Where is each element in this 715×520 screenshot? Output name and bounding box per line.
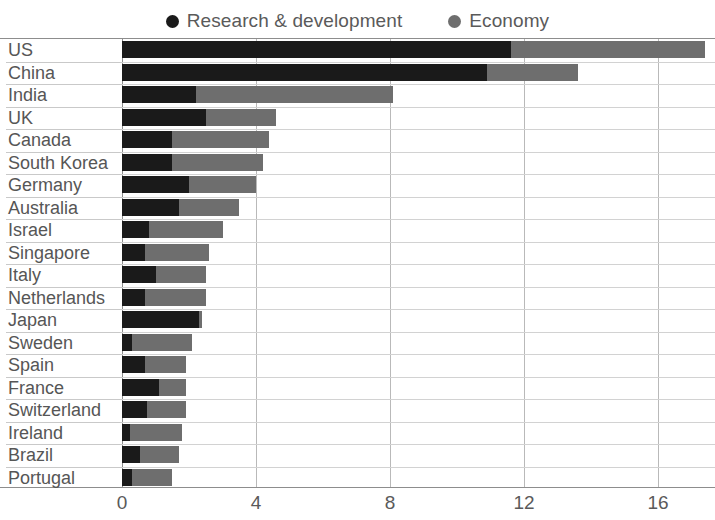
bar-row[interactable]: [122, 377, 715, 399]
bar-row[interactable]: [122, 62, 715, 84]
bar-segment-research-development[interactable]: [122, 379, 159, 396]
x-tick-label: 4: [251, 492, 262, 514]
bar-segment-research-development[interactable]: [122, 469, 132, 486]
category-label: Japan: [8, 310, 57, 330]
x-tick-label: 12: [513, 492, 534, 514]
bar-segment-economy[interactable]: [145, 244, 209, 261]
plot-wrapper: USChinaIndiaUKCanadaSouth KoreaGermanyAu…: [0, 38, 715, 490]
bar-row[interactable]: [122, 242, 715, 264]
legend-item-research-development[interactable]: Research & development: [166, 10, 403, 32]
category-label: Spain: [8, 355, 54, 375]
x-tick-label: 8: [385, 492, 396, 514]
bar-row[interactable]: [122, 152, 715, 174]
bar-segment-economy[interactable]: [487, 64, 577, 81]
bar-segment-research-development[interactable]: [122, 401, 147, 418]
bar-segment-research-development[interactable]: [122, 356, 145, 373]
bar-row[interactable]: [122, 219, 715, 241]
category-label: UK: [8, 108, 33, 128]
bar-segment-research-development[interactable]: [122, 244, 145, 261]
chart-legend: Research & development Economy: [0, 6, 715, 36]
bar-segment-economy[interactable]: [172, 154, 262, 171]
bar-segment-economy[interactable]: [196, 86, 394, 103]
bar-segment-research-development[interactable]: [122, 446, 140, 463]
bar-segment-research-development[interactable]: [122, 289, 145, 306]
category-label: Brazil: [8, 445, 53, 465]
bar-segment-research-development[interactable]: [122, 311, 199, 328]
bar-row[interactable]: [122, 354, 715, 376]
bar-row[interactable]: [122, 264, 715, 286]
bar-row[interactable]: [122, 129, 715, 151]
bar-segment-economy[interactable]: [189, 176, 256, 193]
legend-label: Research & development: [187, 10, 403, 32]
bar-segment-research-development[interactable]: [122, 334, 132, 351]
bar-segment-research-development[interactable]: [122, 41, 511, 58]
category-label: India: [8, 85, 47, 105]
legend-item-economy[interactable]: Economy: [448, 10, 549, 32]
bar-segment-research-development[interactable]: [122, 176, 189, 193]
bar-segment-economy[interactable]: [145, 289, 205, 306]
bar-row[interactable]: [122, 309, 715, 331]
dot-icon: [166, 15, 179, 28]
category-label: Netherlands: [8, 288, 105, 308]
bar-segment-research-development[interactable]: [122, 131, 172, 148]
x-axis: 0481216: [122, 492, 715, 520]
bar-segment-economy[interactable]: [145, 356, 185, 373]
category-label: Switzerland: [8, 400, 101, 420]
bar-segment-economy[interactable]: [149, 221, 223, 238]
bar-segment-economy[interactable]: [140, 446, 179, 463]
bar-segment-research-development[interactable]: [122, 86, 196, 103]
category-label: Israel: [8, 220, 52, 240]
category-label-column: USChinaIndiaUKCanadaSouth KoreaGermanyAu…: [0, 38, 122, 488]
category-label: Canada: [8, 130, 71, 150]
bar-segment-economy[interactable]: [132, 334, 192, 351]
legend-label: Economy: [469, 10, 549, 32]
category-label: Singapore: [8, 243, 90, 263]
bar-row[interactable]: [122, 174, 715, 196]
bar-segment-economy[interactable]: [179, 199, 239, 216]
bar-segment-research-development[interactable]: [122, 64, 487, 81]
category-label: South Korea: [8, 153, 108, 173]
bar-segment-research-development[interactable]: [122, 221, 149, 238]
bar-row[interactable]: [122, 84, 715, 106]
category-label: Sweden: [8, 333, 73, 353]
bar-row[interactable]: [122, 107, 715, 129]
x-tick-label: 16: [647, 492, 668, 514]
category-label: France: [8, 378, 64, 398]
bar-segment-research-development[interactable]: [122, 154, 172, 171]
bar-segment-economy[interactable]: [156, 266, 206, 283]
category-label: Portugal: [8, 468, 75, 488]
plot-area: [122, 38, 715, 488]
bar-segment-economy[interactable]: [159, 379, 186, 396]
category-label: Germany: [8, 175, 82, 195]
bar-segment-economy[interactable]: [511, 41, 705, 58]
bar-segment-economy[interactable]: [199, 311, 202, 328]
category-label: China: [8, 63, 55, 83]
bar-row[interactable]: [122, 399, 715, 421]
bar-segment-economy[interactable]: [130, 424, 182, 441]
bar-segment-research-development[interactable]: [122, 424, 130, 441]
bar-segment-economy[interactable]: [172, 131, 269, 148]
bar-row[interactable]: [122, 422, 715, 444]
category-label: Australia: [8, 198, 78, 218]
bar-segment-economy[interactable]: [132, 469, 172, 486]
bar-segment-economy[interactable]: [206, 109, 276, 126]
bar-segment-research-development[interactable]: [122, 199, 179, 216]
bar-row[interactable]: [122, 287, 715, 309]
x-tick-label: 0: [117, 492, 128, 514]
category-label: Italy: [8, 265, 41, 285]
dot-icon: [448, 15, 461, 28]
bar-segment-research-development[interactable]: [122, 109, 206, 126]
bar-row[interactable]: [122, 332, 715, 354]
bar-segment-economy[interactable]: [147, 401, 186, 418]
bar-row[interactable]: [122, 467, 715, 489]
bar-segment-research-development[interactable]: [122, 266, 156, 283]
bar-row[interactable]: [122, 197, 715, 219]
bar-chart: Research & development Economy USChinaIn…: [0, 0, 715, 520]
category-label: US: [8, 40, 33, 60]
bar-row[interactable]: [122, 39, 715, 61]
bar-row[interactable]: [122, 444, 715, 466]
category-label: Ireland: [8, 423, 63, 443]
